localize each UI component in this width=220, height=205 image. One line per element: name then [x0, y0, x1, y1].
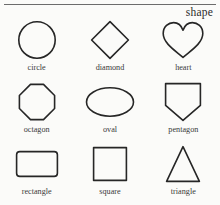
- pentagon-shape-icon: [147, 81, 220, 123]
- shape-label: diamond: [96, 63, 125, 73]
- heart-shape-icon: [147, 19, 220, 61]
- header-divider: [4, 4, 216, 5]
- shape-label: heart: [175, 63, 191, 73]
- shape-label: pentagon: [168, 125, 198, 135]
- shape-cell-circle: circle: [0, 19, 73, 80]
- shape-cell-pentagon: pentagon: [147, 81, 220, 142]
- shape-cell-oval: oval: [73, 81, 146, 142]
- shape-grid: circle diamond heart: [0, 19, 220, 204]
- shape-label: oval: [103, 125, 117, 135]
- square-shape-icon: [73, 143, 146, 185]
- shape-cell-heart: heart: [147, 19, 220, 80]
- circle-shape-icon: [0, 19, 73, 61]
- page-title: shape: [186, 6, 213, 19]
- shape-label: square: [99, 187, 120, 197]
- shape-cell-diamond: diamond: [73, 19, 146, 80]
- shape-cell-triangle: triangle: [147, 143, 220, 204]
- diamond-shape-icon: [73, 19, 146, 61]
- shape-cell-octagon: octagon: [0, 81, 73, 142]
- shape-cell-rectangle: rectangle: [0, 143, 73, 204]
- shape-label: triangle: [171, 187, 196, 197]
- octagon-shape-icon: [0, 81, 73, 123]
- shape-label: octagon: [24, 125, 50, 135]
- rectangle-shape-icon: [0, 143, 73, 185]
- shape-label: circle: [28, 63, 46, 73]
- shape-reference-page: shape circle diamond: [0, 0, 220, 205]
- shape-label: rectangle: [22, 187, 52, 197]
- oval-shape-icon: [73, 81, 146, 123]
- shape-cell-square: square: [73, 143, 146, 204]
- triangle-shape-icon: [147, 143, 220, 185]
